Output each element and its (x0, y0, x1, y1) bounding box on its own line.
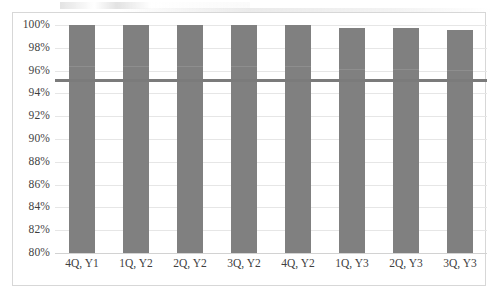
gridline (55, 207, 487, 208)
bar (285, 25, 311, 253)
x-axis-tick-label: 3Q, Y2 (217, 257, 271, 270)
y-axis-tick-label: 98% (6, 42, 50, 54)
x-axis-tick-label: 2Q, Y3 (379, 257, 433, 270)
gridline (55, 185, 487, 186)
bar (123, 25, 149, 253)
x-axis-tick-label: 3Q, Y3 (433, 257, 487, 270)
y-axis-tick-label: 94% (6, 87, 50, 99)
gridline (55, 139, 487, 140)
x-axis-tick-label: 4Q, Y1 (55, 257, 109, 270)
x-axis-tick-label: 1Q, Y3 (325, 257, 379, 270)
y-axis-tick-label: 82% (6, 224, 50, 236)
gridline (55, 253, 487, 254)
gridline (55, 116, 487, 117)
bar (339, 28, 365, 253)
plot-area (55, 25, 487, 253)
gridline (55, 48, 487, 49)
gridline (55, 230, 487, 231)
bar (447, 30, 473, 253)
gridline (55, 162, 487, 163)
y-axis: 100%98%96%94%92%90%88%86%84%82%80% (0, 25, 50, 253)
x-axis-tick-label: 2Q, Y2 (163, 257, 217, 270)
gridline (55, 25, 487, 26)
gridline (55, 71, 487, 72)
bar (393, 28, 419, 253)
gridline (55, 93, 487, 94)
bar (69, 25, 95, 253)
y-axis-tick-label: 100% (6, 19, 50, 31)
y-axis-tick-label: 80% (6, 247, 50, 259)
bar (177, 25, 203, 253)
y-axis-tick-label: 84% (6, 201, 50, 213)
y-axis-tick-label: 88% (6, 156, 50, 168)
x-axis: 4Q, Y11Q, Y22Q, Y23Q, Y24Q, Y21Q, Y32Q, … (55, 257, 487, 281)
bar (231, 25, 257, 253)
x-axis-tick-label: 1Q, Y2 (109, 257, 163, 270)
y-axis-tick-label: 90% (6, 133, 50, 145)
y-axis-tick-label: 96% (6, 65, 50, 77)
y-axis-tick-label: 86% (6, 179, 50, 191)
x-axis-tick-label: 4Q, Y2 (271, 257, 325, 270)
target-reference-line (55, 79, 487, 82)
bar-chart-figure: 100%98%96%94%92%90%88%86%84%82%80% 4Q, Y… (0, 0, 498, 295)
y-axis-tick-label: 92% (6, 110, 50, 122)
